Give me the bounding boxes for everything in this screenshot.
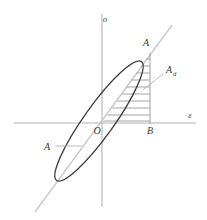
origin-label: O <box>93 125 100 136</box>
hatched-area-subscript: d <box>173 70 177 77</box>
base-point-label: B <box>147 125 153 136</box>
secant-modulus-line <box>35 25 172 212</box>
x-axis-label: ε <box>188 110 192 120</box>
peak-point-label: A <box>142 37 150 48</box>
figure-canvas: σ ε A B O A A d <box>0 0 207 220</box>
hatched-area-leader-line <box>143 74 163 90</box>
loop-area-label: A <box>43 141 51 152</box>
hysteresis-figure: σ ε A B O A A d <box>0 0 207 220</box>
y-axis-label: σ <box>103 14 108 24</box>
hatched-area-label: A <box>165 64 173 75</box>
